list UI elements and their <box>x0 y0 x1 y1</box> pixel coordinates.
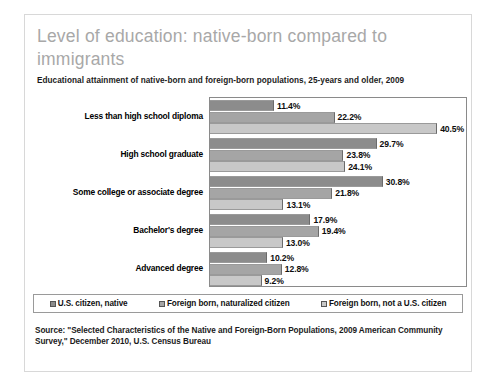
bar-row: 19.4% <box>210 226 346 237</box>
category-axis: Less than high school diplomaHigh school… <box>31 97 207 287</box>
legend-swatch-icon <box>159 301 165 307</box>
bar-row: 13.1% <box>210 199 310 210</box>
bar-value-label: 11.4% <box>277 101 300 111</box>
legend-swatch-icon <box>321 301 327 307</box>
bar-value-label: 13.1% <box>286 200 310 210</box>
bar-value-label: 17.9% <box>313 215 337 225</box>
category-label: Bachelor's degree <box>31 225 203 235</box>
category-label: Advanced degree <box>31 263 203 273</box>
legend-item[interactable]: Foreign born, naturalized citizen <box>159 299 290 308</box>
bar-2 <box>210 161 345 172</box>
plot-area: 11.4%22.2%40.5%29.7%23.8%24.1%30.8%21.8%… <box>209 97 467 287</box>
legend-item[interactable]: U.S. citizen, native <box>50 299 128 308</box>
legend-label: U.S. citizen, native <box>58 299 128 308</box>
chart-legend: U.S. citizen, nativeForeign born, natura… <box>33 294 463 313</box>
bar-value-label: 19.4% <box>322 226 346 236</box>
bar-row: 24.1% <box>210 161 372 172</box>
bar-1 <box>210 188 332 199</box>
bar-row: 21.8% <box>210 188 359 199</box>
bar-value-label: 10.2% <box>270 253 294 263</box>
bar-0 <box>210 252 267 263</box>
bar-2 <box>210 275 262 286</box>
bar-value-label: 29.7% <box>380 139 404 149</box>
category-label: Some college or associate degree <box>31 187 203 197</box>
bar-1 <box>210 112 335 123</box>
bar-0 <box>210 176 383 187</box>
bar-value-label: 23.8% <box>346 150 370 160</box>
bar-row: 17.9% <box>210 214 337 225</box>
bar-1 <box>210 264 282 275</box>
legend-item[interactable]: Foreign born, not a U.S. citizen <box>321 299 446 308</box>
bar-0 <box>210 214 310 225</box>
bar-2 <box>210 199 283 210</box>
chart-card: Level of education: native-born compared… <box>24 14 472 372</box>
bar-0 <box>210 138 377 149</box>
chart-title: Level of education: native-born compared… <box>37 25 447 71</box>
chart-plot-wrapper: Less than high school diplomaHigh school… <box>31 97 467 287</box>
bar-2 <box>210 237 283 248</box>
bar-2 <box>210 123 437 134</box>
bar-value-label: 24.1% <box>348 162 372 172</box>
bar-0 <box>210 100 274 111</box>
chart-subtitle: Educational attainment of native-born an… <box>37 76 462 86</box>
bar-value-label: 21.8% <box>335 188 359 198</box>
bar-row: 13.0% <box>210 237 310 248</box>
bar-value-label: 30.8% <box>386 177 410 187</box>
bar-row: 23.8% <box>210 150 370 161</box>
bar-row: 30.8% <box>210 176 410 187</box>
legend-label: Foreign born, not a U.S. citizen <box>329 299 446 308</box>
legend-label: Foreign born, naturalized citizen <box>167 299 290 308</box>
bar-1 <box>210 150 343 161</box>
bar-row: 12.8% <box>210 264 309 275</box>
bar-value-label: 12.8% <box>285 264 309 274</box>
source-note: Source: "Selected Characteristics of the… <box>35 325 455 347</box>
legend-swatch-icon <box>50 301 56 307</box>
category-label: High school graduate <box>31 149 203 159</box>
bar-1 <box>210 226 319 237</box>
bar-value-label: 22.2% <box>338 112 362 122</box>
bar-value-label: 40.5% <box>440 124 464 134</box>
bar-row: 29.7% <box>210 138 403 149</box>
bar-row: 11.4% <box>210 100 300 111</box>
bar-row: 10.2% <box>210 252 294 263</box>
bar-row: 9.2% <box>210 275 284 286</box>
bar-value-label: 13.0% <box>286 238 310 248</box>
bar-value-label: 9.2% <box>265 276 284 286</box>
bar-row: 40.5% <box>210 123 464 134</box>
bar-row: 22.2% <box>210 112 361 123</box>
category-label: Less than high school diploma <box>31 111 203 121</box>
